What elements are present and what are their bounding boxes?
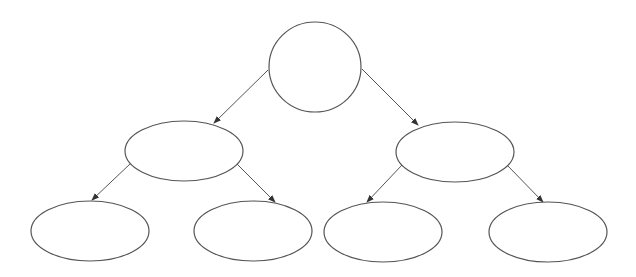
node-left-right — [194, 201, 312, 261]
node-shape-ellipse — [125, 121, 243, 181]
node-shape-ellipse — [324, 202, 442, 262]
nodes — [31, 22, 607, 262]
node-right — [396, 122, 514, 182]
tree-diagram — [0, 0, 636, 277]
node-left-left — [31, 201, 149, 261]
edge-arrow-left-to-left-left — [92, 164, 130, 200]
node-right-right — [489, 202, 607, 262]
node-root — [269, 22, 361, 112]
node-shape-circle — [269, 22, 361, 112]
node-shape-ellipse — [489, 202, 607, 262]
edge-arrow-left-to-left-right — [237, 164, 275, 202]
edge-arrow-right-to-right-left — [367, 165, 402, 202]
node-left — [125, 121, 243, 181]
node-shape-ellipse — [31, 201, 149, 261]
node-shape-ellipse — [396, 122, 514, 182]
edge-arrow-right-to-right-right — [507, 165, 543, 202]
edge-arrow-root-to-right — [362, 69, 418, 125]
node-shape-ellipse — [194, 201, 312, 261]
node-right-left — [324, 202, 442, 262]
tree-diagram-svg — [0, 0, 636, 277]
edge-arrow-root-to-left — [214, 70, 268, 123]
